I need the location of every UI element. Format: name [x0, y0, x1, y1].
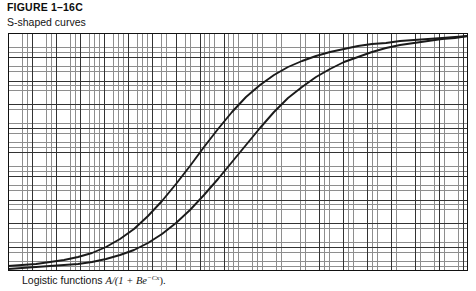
figure-caption: Logistic functions A/(1 + Be−Cx). [22, 273, 166, 288]
figure-header: FIGURE 1–16C S-shaped curves [7, 1, 307, 30]
figure-number-label: FIGURE 1–16C [7, 1, 307, 14]
caption-formula-main: A/(1 + Be [105, 275, 147, 286]
figure-container: FIGURE 1–16C S-shaped curves Logistic fu… [0, 0, 476, 291]
caption-formula-exponent: −Cx [147, 274, 160, 282]
caption-prefix-text: Logistic functions [22, 274, 105, 286]
figure-subtitle-label: S-shaped curves [7, 15, 307, 30]
plot-border [8, 33, 468, 271]
caption-formula-tail: ). [159, 275, 165, 286]
graph-plot-area [8, 33, 468, 271]
